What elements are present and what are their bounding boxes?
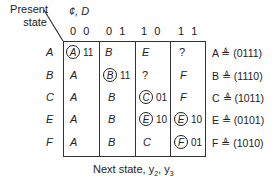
row-label-f: F	[46, 136, 53, 148]
column-header-10: 1 0	[141, 25, 162, 37]
stable-state-circle: A	[66, 45, 80, 59]
cell-e-00: A	[70, 113, 77, 125]
cell-b-00: A	[70, 69, 77, 81]
cell-c-11: F	[180, 91, 187, 103]
output-value: 10	[191, 114, 202, 125]
input-variables-label: ¢, D	[69, 5, 89, 17]
cell-b-01: B11	[103, 68, 130, 82]
cell-c-00: A	[70, 91, 77, 103]
cell-e-01: B	[108, 113, 115, 125]
state-assignment-e: E ≜ (0101)	[212, 114, 264, 126]
state-assignment-a: A ≜ (0111)	[212, 47, 262, 59]
cell-b-10: ?	[142, 69, 148, 81]
stable-state-circle: E	[174, 112, 188, 126]
stable-state-circle: C	[139, 90, 153, 104]
output-value: 01	[156, 92, 167, 103]
output-value: 11	[120, 70, 130, 81]
cell-e-10: E10	[139, 112, 167, 126]
stable-state-circle: F	[174, 135, 188, 149]
row-label-c: C	[46, 91, 54, 103]
column-header-00: 0 0	[70, 25, 91, 37]
output-value: 11	[83, 47, 93, 58]
stable-state-circle: E	[139, 112, 153, 126]
cell-a-11: ?	[179, 46, 185, 58]
output-value: 01	[191, 137, 202, 148]
state-assignment-b: B ≜ (1110)	[212, 70, 263, 82]
caption-sub3: 3	[170, 170, 174, 177]
corner-diagonal	[0, 0, 276, 182]
next-state-caption: Next state, y2, y3	[93, 163, 174, 177]
row-label-b: B	[46, 69, 53, 81]
cell-f-10: C	[143, 136, 151, 148]
cell-a-01: B	[105, 46, 112, 58]
grid-divider-3	[170, 41, 171, 157]
cell-c-01: B	[108, 91, 115, 103]
caption-text: Next state, y	[93, 163, 154, 175]
cell-e-11: E10	[174, 112, 202, 126]
cell-a-10: E	[142, 46, 149, 58]
cell-f-00: A	[70, 136, 77, 148]
state-assignment-f: F ≜ (1010)	[212, 137, 264, 149]
grid-divider-1	[99, 41, 100, 157]
cell-f-01: B	[108, 136, 115, 148]
state-assignment-c: C ≜ (1011)	[212, 92, 264, 104]
cell-a-00: A11	[66, 45, 93, 59]
cell-f-11: F01	[174, 135, 202, 149]
grid-divider-2	[135, 41, 136, 157]
output-value: 10	[156, 114, 167, 125]
cell-b-11: F	[180, 69, 187, 81]
caption-sep: , y	[158, 163, 170, 175]
grid-right-border	[205, 41, 206, 157]
stable-state-circle: B	[103, 68, 117, 82]
grid-left-border	[63, 41, 64, 157]
row-label-a: A	[46, 46, 53, 58]
row-label-e: E	[46, 113, 53, 125]
column-header-11: 1 1	[178, 25, 199, 37]
cell-c-10: C01	[139, 90, 167, 104]
column-header-01: 0 1	[106, 25, 127, 37]
